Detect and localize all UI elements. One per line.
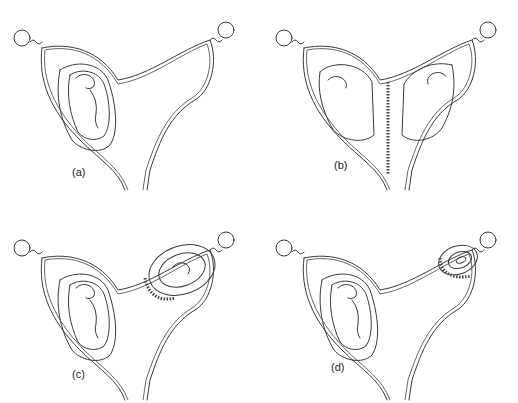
- panel-label-d: (d): [331, 361, 344, 373]
- panel-a-drawing: [14, 22, 234, 190]
- panel-d-drawing: [276, 232, 496, 400]
- panel-label-c: (c): [72, 368, 85, 380]
- panel-label-a: (a): [72, 166, 85, 178]
- panel-c-drawing: [14, 232, 234, 400]
- panel-label-b: (b): [334, 159, 347, 171]
- diagram-canvas: [0, 0, 518, 403]
- panel-b-drawing: [276, 22, 496, 190]
